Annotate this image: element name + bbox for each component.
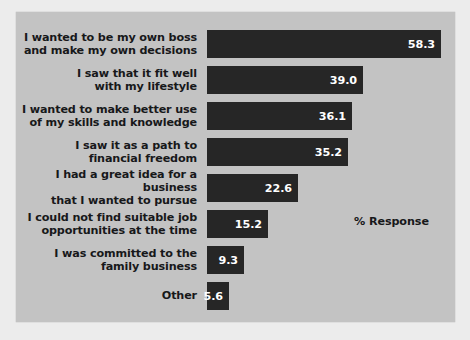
category-label: I saw it as a path to financial freedom	[16, 139, 202, 165]
bar[interactable]: 15.2	[207, 210, 268, 238]
bar-value-label: 35.2	[315, 146, 342, 159]
bar[interactable]: 39.0	[207, 66, 363, 94]
bar-value-label: 36.1	[319, 110, 346, 123]
bar-value-label: 9.3	[218, 254, 238, 267]
bar[interactable]: 36.1	[207, 102, 352, 130]
bar[interactable]: 22.6	[207, 174, 298, 202]
bar-value-label: 39.0	[330, 74, 357, 87]
bar[interactable]: 5.6	[207, 282, 229, 310]
bar-value-label: 5.6	[203, 290, 223, 303]
bar-row: I had a great idea for a business that I…	[16, 174, 455, 202]
bar[interactable]: 35.2	[207, 138, 348, 166]
category-label: Other	[16, 289, 202, 302]
bar-row: Other 5.6	[16, 282, 455, 310]
bar-value-label: 58.3	[408, 38, 435, 51]
bar-value-label: 15.2	[235, 218, 262, 231]
bar-rows: I wanted to be my own boss and make my o…	[16, 12, 455, 322]
category-label: I wanted to be my own boss and make my o…	[16, 31, 202, 57]
bar-row: I wanted to make better use of my skills…	[16, 102, 455, 130]
category-label: I could not find suitable job opportunit…	[16, 211, 202, 237]
chart-figure: I wanted to be my own boss and make my o…	[0, 0, 470, 340]
category-label: I wanted to make better use of my skills…	[16, 103, 202, 129]
bar-row: I was committed to the family business 9…	[16, 246, 455, 274]
bar[interactable]: 9.3	[207, 246, 244, 274]
legend-label: % Response	[354, 215, 429, 228]
category-label: I saw that it fit well with my lifestyle	[16, 67, 202, 93]
bar-row: I saw it as a path to financial freedom …	[16, 138, 455, 166]
category-label: I was committed to the family business	[16, 247, 202, 273]
bar-row: I saw that it fit well with my lifestyle…	[16, 66, 455, 94]
bar-row: I wanted to be my own boss and make my o…	[16, 30, 455, 58]
chart-panel: I wanted to be my own boss and make my o…	[16, 12, 455, 322]
bar-value-label: 22.6	[265, 182, 292, 195]
bar[interactable]: 58.3	[207, 30, 441, 58]
category-label: I had a great idea for a business that I…	[16, 168, 202, 208]
